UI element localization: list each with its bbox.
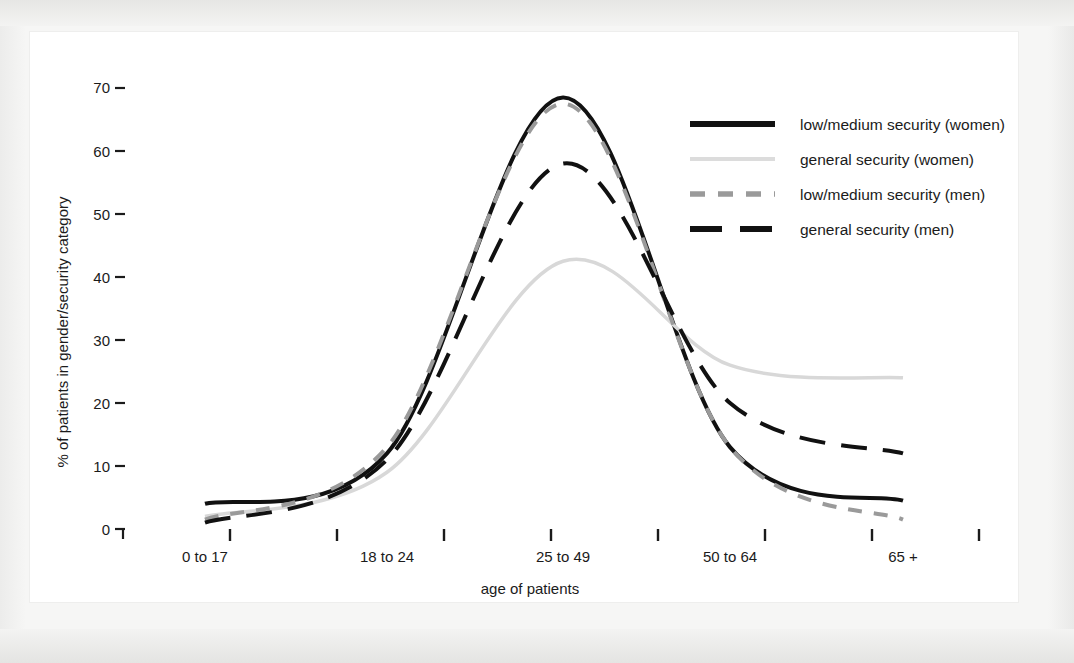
series-line-0	[205, 97, 903, 503]
series-line-3	[205, 163, 903, 522]
x-tick-label: 18 to 24	[360, 548, 414, 565]
y-tick-label: 20	[93, 395, 110, 412]
legend-label: low/medium security (women)	[800, 116, 1005, 133]
x-tick-label: 50 to 64	[703, 548, 757, 565]
y-axis-ticks	[115, 88, 125, 539]
legend-item: general security (women)	[690, 151, 974, 168]
y-tick-label: 70	[93, 79, 110, 96]
legend-label: general security (men)	[800, 221, 954, 238]
series-line-1	[205, 259, 903, 516]
line-chart: 70 60 50 40 30 20 10 0	[30, 32, 1018, 602]
y-tick-label: 10	[93, 458, 110, 475]
x-axis-ticks	[230, 529, 979, 541]
scanned-page-background: 70 60 50 40 30 20 10 0	[0, 0, 1074, 663]
chart-plot-area: 70 60 50 40 30 20 10 0	[30, 32, 1018, 602]
legend-item: low/medium security (women)	[690, 116, 1005, 133]
y-tick-label: 0	[102, 521, 110, 538]
x-tick-label: 0 to 17	[182, 548, 228, 565]
y-axis-labels: 70 60 50 40 30 20 10 0	[93, 79, 110, 538]
x-tick-label: 65 +	[888, 548, 918, 565]
chart-panel: 70 60 50 40 30 20 10 0	[30, 32, 1018, 602]
y-tick-label: 40	[93, 269, 110, 286]
y-tick-label: 30	[93, 332, 110, 349]
data-series-group	[205, 97, 903, 522]
legend-label: low/medium security (men)	[800, 186, 985, 203]
y-axis-title: % of patients in gender/security categor…	[54, 196, 71, 467]
y-tick-label: 50	[93, 206, 110, 223]
x-axis-labels: 0 to 17 18 to 24 25 to 49 50 to 64 65 +	[182, 548, 918, 565]
legend-item: general security (men)	[690, 221, 954, 238]
legend-label: general security (women)	[800, 151, 974, 168]
x-tick-label: 25 to 49	[536, 548, 590, 565]
legend-item: low/medium security (men)	[690, 186, 985, 203]
series-line-2	[205, 104, 903, 520]
y-tick-label: 60	[93, 143, 110, 160]
x-axis-title: age of patients	[481, 580, 579, 597]
chart-legend: low/medium security (women) general secu…	[690, 116, 1005, 238]
